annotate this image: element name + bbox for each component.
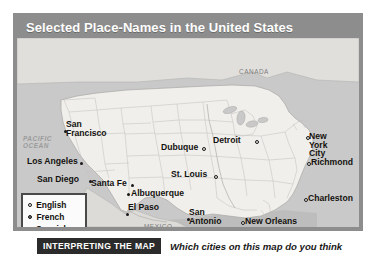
- map-legend: English French Spanish: [21, 193, 87, 227]
- legend-label-french: French: [36, 212, 64, 222]
- legend-label-english: English: [36, 200, 66, 210]
- caption-question-text: Which cities on this map do you think: [170, 241, 342, 252]
- caption-badge: INTERPRETING THE MAP: [37, 238, 161, 254]
- legend-item-french[interactable]: French: [28, 211, 81, 223]
- legend-marker-french-icon: [28, 215, 32, 219]
- interpreting-the-map-caption: INTERPRETING THE MAP Which cities on thi…: [37, 238, 342, 254]
- map-figure: Selected Place-Names in the United State…: [13, 13, 363, 231]
- figure-title-bar: Selected Place-Names in the United State…: [17, 17, 359, 38]
- legend-label-spanish: Spanish: [36, 224, 69, 227]
- page-title: Selected Place-Names in the United State…: [26, 20, 293, 35]
- map-canvas[interactable]: CANADA MEXICO PACIFIC OCEAN GULF OF MEXI…: [17, 38, 359, 227]
- legend-marker-english-icon: [28, 203, 32, 207]
- legend-item-spanish[interactable]: Spanish: [28, 223, 81, 227]
- legend-item-english[interactable]: English: [28, 199, 81, 211]
